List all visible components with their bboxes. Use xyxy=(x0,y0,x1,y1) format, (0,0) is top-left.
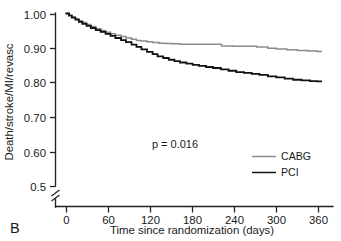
chart-canvas: 0.50.600.700.800.901.00 0601201802403003… xyxy=(0,0,341,241)
y-tick-label-0.90: 0.90 xyxy=(24,43,46,55)
panel-label: B xyxy=(10,220,20,236)
x-tick-label-0: 0 xyxy=(63,214,69,226)
y-tick-label-0.80: 0.80 xyxy=(24,77,46,89)
y-tick-label-0.60: 0.60 xyxy=(24,147,46,159)
survival-curves xyxy=(66,14,322,82)
y-tick-marks xyxy=(50,15,56,187)
p-value-annotation: p = 0.016 xyxy=(152,138,198,150)
legend-label-pci: PCI xyxy=(281,166,299,178)
y-tick-label-0.5: 0.5 xyxy=(30,181,46,193)
kaplan-meier-figure: 0.50.600.700.800.901.00 0601201802403003… xyxy=(0,0,341,241)
x-axis-title: Time since randomization (days) xyxy=(110,224,274,236)
y-tick-label-1.00: 1.00 xyxy=(24,9,46,21)
y-axis-group: 0.50.600.700.800.901.00 xyxy=(24,9,60,208)
legend-label-cabg: CABG xyxy=(281,150,311,162)
y-axis-title: Death/stroke/MI/revasc xyxy=(3,43,15,160)
legend: CABG PCI xyxy=(252,150,311,178)
x-tick-marks xyxy=(67,207,319,213)
x-tick-label-360: 360 xyxy=(309,214,328,226)
y-tick-label-0.70: 0.70 xyxy=(24,112,46,124)
y-tick-labels: 0.50.600.700.800.901.00 xyxy=(24,9,46,193)
curve-pci xyxy=(66,14,322,82)
y-axis-break-upper xyxy=(52,190,60,196)
